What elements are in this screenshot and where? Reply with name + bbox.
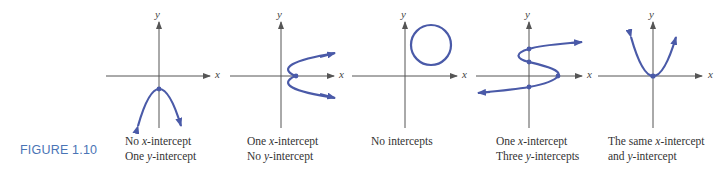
panel-circle: [352, 22, 457, 128]
x-axis-label: x: [708, 68, 713, 80]
y-axis-label: y: [401, 8, 406, 20]
x-axis-label: x: [215, 68, 220, 80]
y-intercept-dot: [527, 85, 532, 90]
caption-line: No y-intercept: [247, 149, 318, 164]
panel-s-curve: [476, 22, 582, 128]
x-axis-label: x: [462, 68, 467, 80]
x-intercept-dot: [556, 74, 561, 79]
caption-panel-4: One x-intercept Three y-intercepts: [496, 134, 579, 164]
caption-panel-2: One x-intercept No y-intercept: [247, 134, 318, 164]
y-intercept-dot: [527, 47, 532, 52]
y-axis-label: y: [649, 8, 654, 20]
caption-panel-1: No x-intercept One y-intercept: [125, 134, 196, 164]
x-axis-label: x: [339, 68, 344, 80]
caption-line: No x-intercept: [125, 134, 196, 149]
caption-line: One x-intercept: [496, 134, 579, 149]
caption-panel-3: No intercepts: [371, 134, 433, 149]
panel-sideways-parabola: [230, 22, 335, 128]
caption-line: The same x-intercept: [608, 134, 704, 149]
y-axis-label: y: [525, 8, 530, 20]
caption-line: No intercepts: [371, 134, 433, 149]
x-intercept-dot: [294, 74, 299, 79]
panel-upward-parabola: [598, 22, 702, 128]
panel-downward-parabola: [106, 22, 210, 128]
caption-line: Three y-intercepts: [496, 149, 579, 164]
y-intercept-dot: [527, 60, 532, 65]
figure-label: FIGURE 1.10: [20, 143, 97, 157]
y-axis-label: y: [277, 8, 282, 20]
x-axis-label: x: [587, 68, 592, 80]
caption-line: One x-intercept: [247, 134, 318, 149]
caption-line: One y-intercept: [125, 149, 196, 164]
y-intercept-dot: [157, 87, 162, 92]
curve: [411, 25, 451, 65]
caption-panel-5: The same x-intercept and y-intercept: [608, 134, 704, 164]
caption-line: and y-intercept: [608, 149, 704, 164]
origin-intercept-dot: [650, 73, 655, 78]
y-axis-label: y: [155, 8, 160, 20]
